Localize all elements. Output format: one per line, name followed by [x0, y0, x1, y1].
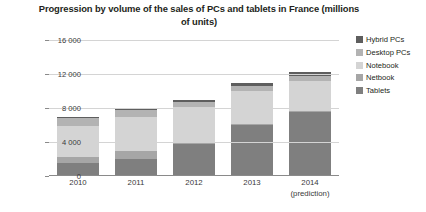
bar-segment[interactable]: [173, 144, 215, 176]
x-axis-label: 2011: [107, 178, 165, 199]
chart-title: Progression by volume of the sales of PC…: [34, 3, 364, 28]
x-axis-label: 2012: [165, 178, 223, 199]
bar-segment[interactable]: [173, 107, 215, 143]
bar-segment[interactable]: [289, 81, 331, 111]
legend-item[interactable]: Desktop PCs: [356, 48, 426, 57]
bar-segment[interactable]: [231, 125, 273, 176]
y-axis-label: 8 000: [21, 104, 81, 113]
gridline: [49, 40, 339, 41]
bar-segment[interactable]: [115, 117, 157, 152]
legend-label: Notebook: [366, 61, 399, 70]
legend-label: Netbook: [366, 73, 394, 82]
legend-swatch-icon: [356, 36, 363, 43]
bar-segment[interactable]: [115, 151, 157, 159]
legend-swatch-icon: [356, 62, 363, 69]
chart-legend: Hybrid PCsDesktop PCsNotebookNetbookTabl…: [356, 35, 426, 99]
bar-segment[interactable]: [57, 118, 99, 126]
x-axis-label: 2010: [49, 178, 107, 199]
legend-swatch-icon: [356, 49, 363, 56]
plot-area: [49, 40, 339, 176]
x-axis-line: [49, 175, 339, 176]
legend-item[interactable]: Netbook: [356, 73, 426, 82]
gridline: [49, 108, 339, 109]
bar-segment[interactable]: [289, 112, 331, 176]
legend-label: Desktop PCs: [366, 48, 410, 57]
y-axis-label: 12 000: [21, 70, 81, 79]
x-axis-label: 2013: [223, 178, 281, 199]
legend-swatch-icon: [356, 87, 363, 94]
x-axis-label: 2014(prediction): [281, 178, 339, 199]
legend-item[interactable]: Tablets: [356, 86, 426, 95]
bar-segment[interactable]: [115, 159, 157, 176]
legend-item[interactable]: Hybrid PCs: [356, 35, 426, 44]
legend-label: Tablets: [366, 86, 390, 95]
chart-container: Progression by volume of the sales of PC…: [0, 0, 426, 212]
legend-swatch-icon: [356, 74, 363, 81]
legend-label: Hybrid PCs: [366, 35, 404, 44]
y-axis-label: 16 000: [21, 36, 81, 45]
x-axis-labels: 20102011201220132014(prediction): [49, 178, 339, 199]
legend-item[interactable]: Notebook: [356, 61, 426, 70]
gridline: [49, 74, 339, 75]
gridline: [49, 142, 339, 143]
bar-segment[interactable]: [115, 110, 157, 117]
y-axis-label: 4 000: [21, 138, 81, 147]
